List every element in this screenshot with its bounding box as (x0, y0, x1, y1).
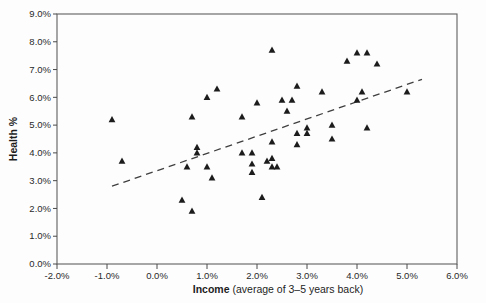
plot-area (57, 14, 457, 264)
x-tick-label: 4.0% (346, 270, 368, 281)
y-axis-title: Health % (7, 116, 19, 161)
x-tick-label: -1.0% (95, 270, 120, 281)
y-tick-label: 1.0% (29, 230, 51, 241)
y-tick-label: 6.0% (29, 92, 51, 103)
y-tick-label: 8.0% (29, 36, 51, 47)
y-tick-label: 9.0% (29, 8, 51, 19)
x-tick-label: 1.0% (196, 270, 218, 281)
y-tick-label: 4.0% (29, 147, 51, 158)
x-axis-title-rest: (average of 3–5 years back) (230, 283, 364, 295)
x-axis-title-bold: Income (193, 283, 230, 295)
y-tick-label: 5.0% (29, 119, 51, 130)
health-vs-income-scatter-plot: 0.0%1.0%2.0%3.0%4.0%5.0%6.0%7.0%8.0%9.0%… (0, 0, 486, 303)
y-tick-label: 7.0% (29, 64, 51, 75)
x-tick-label: -2.0% (45, 270, 70, 281)
y-tick-label: 0.0% (29, 258, 51, 269)
x-tick-label: 0.0% (146, 270, 168, 281)
x-tick-label: 2.0% (246, 270, 268, 281)
x-tick-label: 5.0% (396, 270, 418, 281)
x-axis-title: Income (average of 3–5 years back) (193, 283, 363, 295)
y-tick-label: 3.0% (29, 175, 51, 186)
x-tick-label: 6.0% (446, 270, 468, 281)
scatter-chart-figure: 0.0%1.0%2.0%3.0%4.0%5.0%6.0%7.0%8.0%9.0%… (0, 0, 486, 303)
y-tick-label: 2.0% (29, 203, 51, 214)
x-tick-label: 3.0% (296, 270, 318, 281)
